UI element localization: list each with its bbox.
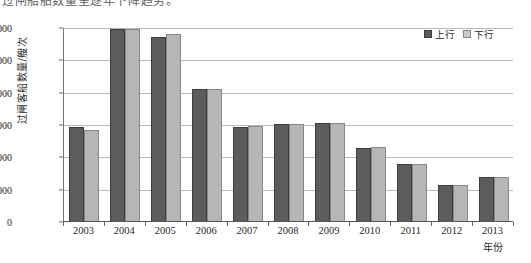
bar-上行-2009 — [315, 123, 330, 221]
y-axis-tick-mark — [59, 92, 63, 93]
bar-chart-figure: 过闸客船数量/艘次 上行下行 0100020003000400050006000… — [0, 11, 531, 264]
bar-上行-2004 — [110, 29, 125, 221]
bar-group — [274, 124, 304, 221]
bar-下行-2012 — [453, 185, 468, 221]
bar-上行-2011 — [397, 164, 412, 221]
y-axis-tick-label: 2000 — [0, 152, 12, 163]
y-axis-tick-mark — [59, 189, 63, 190]
x-axis-tick-label: 2005 — [143, 225, 187, 236]
bar-上行-2005 — [151, 37, 166, 221]
bar-下行-2008 — [289, 124, 304, 221]
y-axis-tick-mark — [59, 157, 63, 158]
bar-上行-2010 — [356, 148, 371, 221]
x-axis-tick-label: 2006 — [184, 225, 228, 236]
bar-下行-2006 — [207, 89, 222, 221]
y-axis-tick-label: 5000 — [0, 55, 12, 66]
bar-上行-2003 — [69, 127, 84, 221]
x-axis-tick-label: 2011 — [389, 225, 433, 236]
x-axis-tick-label: 2003 — [61, 225, 105, 236]
bar-下行-2010 — [371, 147, 386, 221]
scanned-text-fragment-strip: 过闸船舶数量呈逐年下降趋势。 — [0, 0, 531, 11]
y-axis-tick-label: 6000 — [0, 23, 12, 34]
bar-下行-2003 — [84, 130, 99, 221]
legend-label: 下行 — [474, 27, 494, 41]
bar-下行-2005 — [166, 34, 181, 221]
x-axis-tick-label: 2013 — [471, 225, 515, 236]
bar-group — [356, 147, 386, 221]
bar-group — [438, 185, 468, 221]
bar-上行-2013 — [479, 177, 494, 221]
y-axis-tick-label: 1000 — [0, 184, 12, 195]
bar-group — [110, 29, 140, 221]
bar-上行-2012 — [438, 185, 453, 221]
y-axis-tick-mark — [59, 60, 63, 61]
y-axis-tick-label: 3000 — [0, 120, 12, 131]
bar-group — [151, 34, 181, 221]
x-axis-tick-label: 2009 — [307, 225, 351, 236]
bar-group — [479, 177, 509, 221]
scanned-text-fragment: 过闸船舶数量呈逐年下降趋势。 — [2, 0, 178, 8]
bar-下行-2011 — [412, 164, 427, 221]
legend-swatch-up — [424, 30, 432, 38]
bar-group — [69, 127, 99, 221]
y-axis-tick-label: 4000 — [0, 87, 12, 98]
legend-entry-上行: 上行 — [424, 27, 455, 41]
x-axis-tick-label: 2010 — [348, 225, 392, 236]
bar-group — [397, 164, 427, 221]
y-axis-tick-mark — [59, 28, 63, 29]
x-axis-tick-label: 2012 — [430, 225, 474, 236]
bar-上行-2008 — [274, 124, 289, 221]
plot-area — [63, 28, 513, 222]
x-axis-tick-label: 2008 — [266, 225, 310, 236]
bar-下行-2004 — [125, 29, 140, 221]
bar-下行-2013 — [494, 177, 509, 221]
y-axis-tick-label: 0 — [0, 217, 12, 228]
legend-entry-下行: 下行 — [463, 27, 494, 41]
bar-下行-2009 — [330, 123, 345, 221]
bar-上行-2006 — [192, 89, 207, 221]
x-axis-tick-label: 2004 — [102, 225, 146, 236]
y-axis-tick-mark — [59, 125, 63, 126]
bar-group — [233, 126, 263, 221]
legend-swatch-down — [463, 30, 471, 38]
chart-legend: 上行下行 — [424, 27, 494, 41]
x-axis-tick-label: 2007 — [225, 225, 269, 236]
bar-上行-2007 — [233, 127, 248, 221]
x-axis-title: 年份 — [471, 239, 515, 254]
y-axis-title: 过闸客船数量/艘次 — [14, 16, 29, 146]
bar-group — [192, 89, 222, 221]
legend-label: 上行 — [435, 27, 455, 41]
bar-下行-2007 — [248, 126, 263, 221]
x-axis-tick-mark — [513, 222, 514, 226]
bar-group — [315, 123, 345, 221]
